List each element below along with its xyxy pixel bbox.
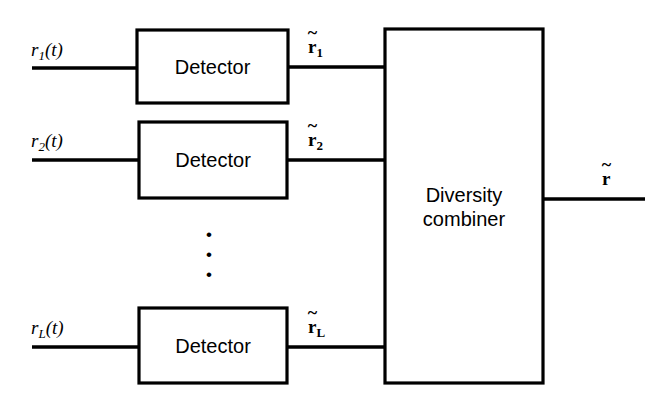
output-label: ~r xyxy=(602,169,610,188)
output-label-1-sub: 1 xyxy=(316,45,323,60)
detector-label-3: Detector xyxy=(139,334,287,358)
input-label-1-arg: (t) xyxy=(45,39,63,60)
diagram-lines-layer xyxy=(0,0,671,405)
input-label-2-arg: (t) xyxy=(45,130,63,151)
output-label-1: ~r1 xyxy=(308,37,323,59)
input-label-3: rL(t) xyxy=(31,318,64,340)
input-label-3-arg: (t) xyxy=(46,317,64,338)
ellipsis-dot-3: • xyxy=(206,265,212,285)
combiner-label-line1: Diversity xyxy=(385,183,543,207)
tilde-mark-2: ~ xyxy=(308,117,317,135)
ellipsis-dot-2: • xyxy=(206,245,212,265)
tilde-mark-3: ~ xyxy=(308,304,317,322)
tilde-mark-output: ~ xyxy=(602,156,611,174)
vertical-ellipsis: • • • xyxy=(206,225,212,285)
combiner-label: Diversity combiner xyxy=(385,183,543,231)
input-label-1: r1(t) xyxy=(31,40,63,62)
diversity-receiver-diagram: r1(t) Detector ~r1 r2(t) Detector ~r2 • … xyxy=(0,0,671,405)
output-label-3: ~rL xyxy=(308,317,325,339)
input-label-3-sub: L xyxy=(38,326,45,341)
output-label-2-sub: 2 xyxy=(316,138,323,153)
detector-label-2: Detector xyxy=(139,148,287,172)
output-label-3-sub: L xyxy=(316,325,325,340)
combiner-label-line2: combiner xyxy=(385,207,543,231)
ellipsis-dot-1: • xyxy=(206,225,212,245)
input-label-2: r2(t) xyxy=(31,131,63,153)
detector-label-1: Detector xyxy=(137,55,288,79)
output-label-2: ~r2 xyxy=(308,130,323,152)
tilde-mark-1: ~ xyxy=(308,24,317,42)
